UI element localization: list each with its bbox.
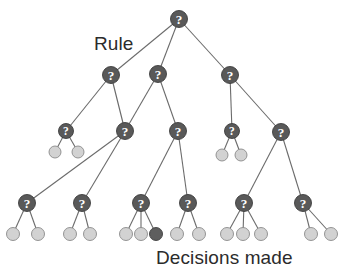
node-circle (32, 228, 45, 241)
question-mark-icon: ? (108, 68, 115, 83)
decision-node[interactable] (255, 228, 268, 241)
decisions-made-label: Decisions made (156, 247, 293, 269)
node-group: ??????????????? (7, 11, 338, 241)
node-circle (7, 228, 20, 241)
tree-edge (158, 74, 178, 131)
decision-node[interactable] (7, 228, 20, 241)
tree-edge (230, 75, 281, 132)
decision-node[interactable] (221, 228, 234, 241)
node-circle (255, 228, 268, 241)
tree-edge (27, 131, 125, 203)
question-mark-icon: ? (300, 196, 307, 211)
question-mark-icon: ? (175, 124, 182, 139)
decision-node[interactable] (305, 228, 318, 241)
tree-edge (141, 131, 178, 203)
rule-node[interactable]: ? (103, 67, 120, 84)
rule-node[interactable]: ? (74, 195, 91, 212)
tree-edge (66, 75, 111, 131)
question-mark-icon: ? (138, 196, 145, 211)
rule-node[interactable]: ? (150, 66, 167, 83)
node-circle (235, 149, 247, 161)
node-circle (171, 228, 184, 241)
node-circle (150, 228, 163, 241)
question-mark-icon: ? (278, 125, 285, 140)
rule-node[interactable]: ? (273, 124, 290, 141)
node-circle (221, 228, 234, 241)
question-mark-icon: ? (155, 67, 162, 82)
decision-node[interactable] (171, 228, 184, 241)
tree-edge (125, 74, 158, 131)
question-mark-icon: ? (63, 125, 69, 138)
decision-node[interactable] (237, 228, 250, 241)
rule-node[interactable]: ? (117, 123, 134, 140)
decision-node[interactable] (72, 146, 84, 158)
node-circle (135, 228, 148, 241)
node-circle (305, 228, 318, 241)
question-mark-icon: ? (24, 196, 31, 211)
rule-node[interactable]: ? (180, 195, 197, 212)
node-circle (193, 228, 206, 241)
question-mark-icon: ? (229, 125, 235, 138)
question-mark-icon: ? (176, 12, 183, 27)
tree-graphic: ??????????????? (0, 0, 341, 272)
rule-node[interactable]: ? (222, 67, 239, 84)
node-circle (64, 228, 77, 241)
node-circle (72, 146, 84, 158)
rule-node[interactable]: ? (295, 195, 312, 212)
tree-edge (82, 131, 125, 203)
decision-node[interactable] (135, 228, 148, 241)
rule-node[interactable]: ? (133, 195, 150, 212)
node-circle (120, 228, 133, 241)
tree-edge (179, 19, 230, 75)
question-mark-icon: ? (241, 196, 248, 211)
rule-node[interactable]: ? (170, 123, 187, 140)
decision-node[interactable] (235, 149, 247, 161)
decision-node[interactable] (120, 228, 133, 241)
rule-node[interactable]: ? (236, 195, 253, 212)
rule-node[interactable]: ? (171, 11, 188, 28)
tree-edge (244, 132, 281, 203)
decision-node[interactable] (193, 228, 206, 241)
decision-node[interactable] (64, 228, 77, 241)
tree-edge (281, 132, 303, 203)
decision-node[interactable] (84, 228, 97, 241)
rule-node[interactable]: ? (59, 124, 74, 139)
decision-node[interactable] (49, 146, 61, 158)
rule-node[interactable]: ? (225, 124, 240, 139)
decision-node[interactable] (325, 228, 338, 241)
decision-node[interactable] (32, 228, 45, 241)
decision-tree-diagram: ??????????????? Rule Decisions made (0, 0, 341, 272)
question-mark-icon: ? (227, 68, 234, 83)
tree-edge (178, 131, 188, 203)
node-circle (216, 149, 228, 161)
node-circle (325, 228, 338, 241)
rule-label: Rule (94, 33, 133, 55)
question-mark-icon: ? (79, 196, 86, 211)
node-circle (237, 228, 250, 241)
rule-node[interactable]: ? (19, 195, 36, 212)
node-circle (49, 146, 61, 158)
decision-node-selected[interactable] (150, 228, 163, 241)
question-mark-icon: ? (122, 124, 129, 139)
node-circle (84, 228, 97, 241)
decision-node[interactable] (216, 149, 228, 161)
question-mark-icon: ? (185, 196, 192, 211)
